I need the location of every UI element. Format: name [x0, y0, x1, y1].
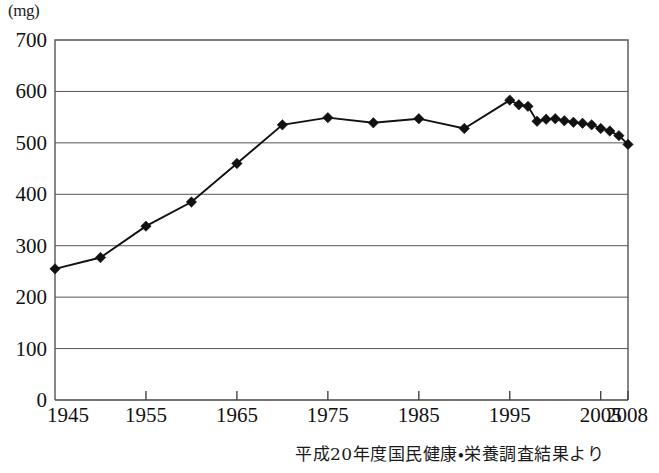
- x-axis-tick-label: 1955: [125, 403, 167, 427]
- line-chart: 0100200300400500600700194519551965197519…: [0, 0, 659, 473]
- y-axis-tick-label: 700: [16, 28, 48, 52]
- data-point-marker: [368, 118, 378, 128]
- data-point-marker: [414, 113, 424, 123]
- data-point-marker: [541, 114, 551, 124]
- data-point-marker: [559, 116, 569, 126]
- data-point-marker: [550, 113, 560, 123]
- data-point-marker: [568, 117, 578, 127]
- x-axis-tick-label: 1995: [489, 403, 531, 427]
- y-axis-tick-label: 300: [16, 234, 48, 258]
- y-axis-tick-label: 400: [16, 182, 48, 206]
- y-axis-tick-label: 200: [16, 285, 48, 309]
- data-point-marker: [605, 126, 615, 136]
- data-point-marker: [523, 101, 533, 111]
- chart-figure: (mg) 01002003004005006007001945195519651…: [0, 0, 659, 473]
- y-axis-tick-label: 600: [16, 79, 48, 103]
- x-axis-tick-label: 1965: [216, 403, 258, 427]
- x-axis-tick-label: 1985: [398, 403, 440, 427]
- data-point-marker: [505, 95, 515, 105]
- x-axis-tick-label: 1975: [307, 403, 349, 427]
- y-axis-tick-label: 0: [37, 388, 48, 412]
- x-axis-tick-label: 1945: [47, 403, 89, 427]
- y-axis-tick-label: 100: [16, 337, 48, 361]
- data-point-marker: [50, 264, 60, 274]
- data-point-marker: [577, 118, 587, 128]
- source-note: 平成20年度国民健康・栄養調査結果より: [295, 440, 604, 465]
- y-axis-tick-label: 500: [16, 131, 48, 155]
- series-line-0: [55, 100, 628, 269]
- data-point-marker: [532, 116, 542, 126]
- plot-frame: [55, 40, 628, 400]
- data-point-marker: [459, 123, 469, 133]
- data-point-marker: [514, 100, 524, 110]
- x-axis-tick-label: 2008: [606, 403, 648, 427]
- data-point-marker: [323, 112, 333, 122]
